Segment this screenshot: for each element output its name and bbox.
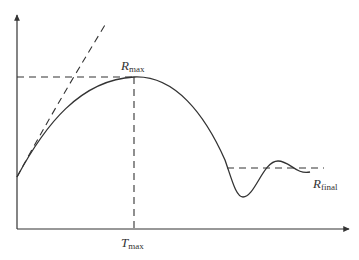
response-curve [17,77,310,197]
response-diagram: Rmax Tmax Rfinal [0,0,359,260]
r-final-label: Rfinal [312,176,338,192]
t-max-label: Tmax [121,235,144,251]
r-max-label: Rmax [120,58,145,74]
